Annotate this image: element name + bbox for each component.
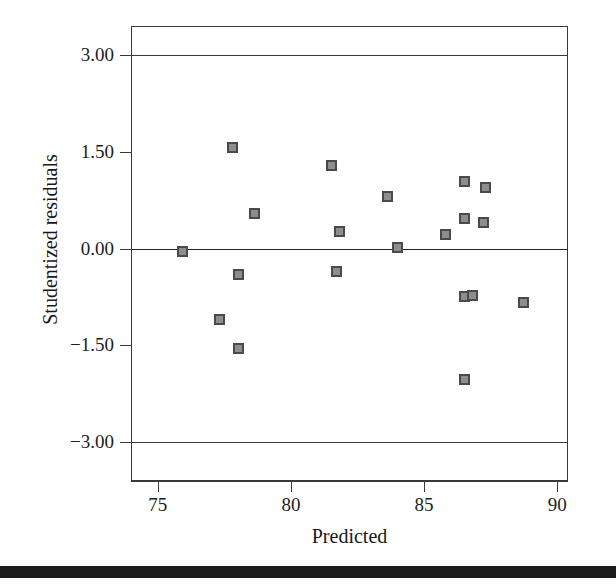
y-axis-tick-label: 3.00	[50, 45, 114, 64]
data-point-marker	[334, 226, 345, 237]
y-axis-tick	[120, 442, 131, 443]
data-point-marker	[331, 266, 342, 277]
page-edge-bar-shadow	[0, 578, 616, 584]
data-point-marker	[249, 208, 260, 219]
upper-limit-line	[131, 55, 568, 56]
zero-line	[131, 249, 568, 250]
y-axis-line	[131, 26, 132, 481]
x-axis-tick	[557, 481, 558, 492]
lower-limit-line	[131, 442, 568, 443]
y-axis-tick-label: −3.00	[50, 432, 114, 451]
data-point-marker	[459, 213, 470, 224]
data-point-marker	[233, 343, 244, 354]
y-axis-tick	[120, 152, 131, 153]
page-edge-bar	[0, 566, 616, 578]
data-point-marker	[467, 290, 478, 301]
data-point-marker	[392, 242, 403, 253]
plot-frame	[131, 26, 568, 481]
data-point-marker	[440, 229, 451, 240]
data-point-marker	[233, 269, 244, 280]
x-axis-line	[131, 481, 568, 482]
y-axis-tick	[120, 345, 131, 346]
residual-plot-figure: 3.001.500.00−1.50−3.00 75808590 Predicte…	[0, 0, 616, 584]
x-axis-tick-label: 90	[527, 495, 587, 514]
data-point-marker	[518, 297, 529, 308]
data-point-marker	[459, 374, 470, 385]
x-axis-tick	[158, 481, 159, 492]
y-axis-tick	[120, 249, 131, 250]
x-axis-tick-label: 75	[128, 495, 188, 514]
x-axis-tick	[424, 481, 425, 492]
x-axis-tick-label: 85	[394, 495, 454, 514]
data-point-marker	[177, 246, 188, 257]
data-point-marker	[227, 142, 238, 153]
data-point-marker	[382, 191, 393, 202]
x-axis-title: Predicted	[131, 525, 568, 548]
data-point-marker	[214, 314, 225, 325]
data-point-marker	[459, 176, 470, 187]
y-axis-tick	[120, 55, 131, 56]
y-axis-title: Studentized residuals	[39, 90, 62, 390]
data-point-marker	[326, 160, 337, 171]
x-axis-tick-label: 80	[261, 495, 321, 514]
data-point-marker	[478, 217, 489, 228]
data-point-marker	[480, 182, 491, 193]
x-axis-tick	[291, 481, 292, 492]
